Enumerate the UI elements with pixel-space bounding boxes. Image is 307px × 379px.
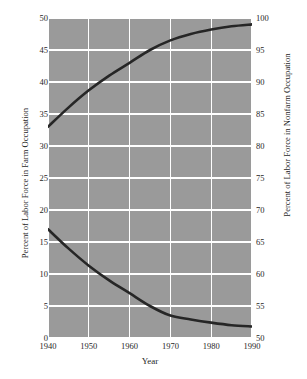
x-axis-tick-1990: 1990 (232, 342, 272, 351)
y-axis-left-tick-40: 40 (40, 78, 49, 87)
y-axis-left-tick-15: 15 (40, 238, 49, 247)
y-axis-right-tick-85: 85 (256, 110, 265, 119)
y-axis-left-tick-20: 20 (40, 206, 49, 215)
x-axis-tick-1980: 1980 (191, 342, 231, 351)
series-lines (48, 18, 252, 338)
x-axis-tick-1970: 1970 (150, 342, 190, 351)
y-axis-left-tick-5: 5 (44, 302, 48, 311)
y-axis-left-title: Percent of Labor Force in Farm Occupatio… (20, 88, 30, 278)
chart-container: 05101520253035404550 5055606570758085909… (0, 0, 307, 379)
y-axis-right-tick-95: 95 (256, 46, 265, 55)
y-axis-right-title: Percent of Labor Force in Nonfarm Occupa… (282, 40, 292, 230)
chart-title (48, 0, 252, 3)
y-axis-right-tick-100: 100 (256, 14, 269, 23)
x-axis-tick-1940: 1940 (28, 342, 68, 351)
y-axis-left-tick-50: 50 (40, 14, 49, 23)
y-axis-right-tick-65: 65 (256, 238, 265, 247)
y-axis-left-tick-30: 30 (40, 142, 49, 151)
plot-area (48, 18, 252, 338)
y-axis-left-tick-45: 45 (40, 46, 49, 55)
x-axis-tick-1960: 1960 (110, 342, 150, 351)
y-axis-left-tick-10: 10 (40, 270, 49, 279)
y-axis-right-tick-75: 75 (256, 174, 265, 183)
y-axis-left-tick-25: 25 (40, 174, 49, 183)
x-axis-title: Year (48, 356, 252, 366)
y-axis-left-tick-35: 35 (40, 110, 49, 119)
y-axis-right-tick-60: 60 (256, 270, 265, 279)
y-axis-right-tick-70: 70 (256, 206, 265, 215)
y-axis-right-tick-80: 80 (256, 142, 265, 151)
x-axis-tick-1950: 1950 (69, 342, 109, 351)
y-axis-right-tick-55: 55 (256, 302, 265, 311)
y-axis-right-tick-90: 90 (256, 78, 265, 87)
